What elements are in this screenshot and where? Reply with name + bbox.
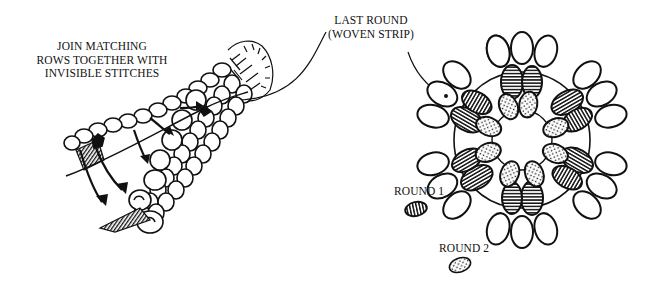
caption-line: JOIN MATCHING bbox=[28, 40, 176, 54]
caption-line: (WOVEN STRIP) bbox=[326, 28, 416, 42]
round2-legend-label: ROUND 2 bbox=[439, 242, 489, 256]
join-rows-caption: JOIN MATCHING ROWS TOGETHER WITH INVISIB… bbox=[28, 40, 176, 81]
caption-line: INVISIBLE STITCHES bbox=[28, 67, 176, 81]
rosette-figure bbox=[415, 32, 629, 248]
caption-line: ROWS TOGETHER WITH bbox=[28, 54, 176, 68]
leader-dot bbox=[444, 94, 448, 98]
round1-legend-label: ROUND 1 bbox=[394, 185, 444, 199]
last-round-caption: LAST ROUND (WOVEN STRIP) bbox=[326, 14, 416, 41]
caption-line: LAST ROUND bbox=[326, 14, 416, 28]
round1-swatch bbox=[404, 200, 428, 218]
round2-swatch bbox=[447, 255, 472, 276]
rosette-center bbox=[511, 129, 533, 151]
illustration-canvas: JOIN MATCHING ROWS TOGETHER WITH INVISIB… bbox=[0, 0, 656, 291]
